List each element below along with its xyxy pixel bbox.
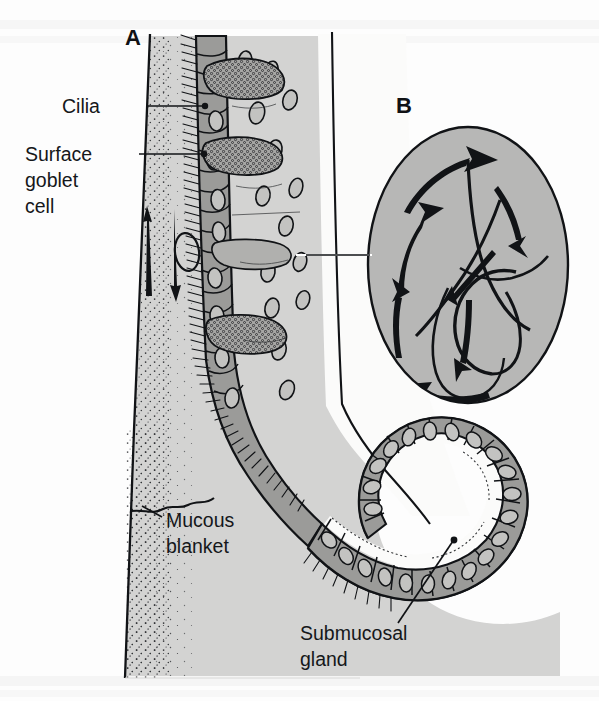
gland-label-line1: Submucosal xyxy=(300,622,407,644)
goblet-cell xyxy=(203,137,283,175)
goblet-leader-dot xyxy=(201,151,207,157)
goblet-cell xyxy=(212,239,291,269)
panel-b-detail xyxy=(368,127,568,404)
mucous-label-line2: blanket xyxy=(166,535,229,557)
goblet-label-line2: goblet xyxy=(25,169,79,191)
goblet-cell xyxy=(204,59,284,100)
anatomical-diagram: A B Cilia Surface goblet cell Mucous bla… xyxy=(0,0,599,701)
cilia-label: Cilia xyxy=(62,95,100,117)
goblet-label-line1: Surface xyxy=(25,143,92,165)
goblet-cell xyxy=(206,315,286,354)
panel-letter-b: B xyxy=(396,93,412,118)
mucous-label-line1: Mucous xyxy=(166,509,235,531)
figure-root: A B Cilia Surface goblet cell Mucous bla… xyxy=(0,0,599,701)
cilia-leader-dot xyxy=(202,103,208,109)
panel-letter-a: A xyxy=(125,25,141,50)
gland-leader-dot xyxy=(451,537,458,544)
gland-label-line2: gland xyxy=(300,648,348,670)
goblet-label-line3: cell xyxy=(25,195,54,217)
